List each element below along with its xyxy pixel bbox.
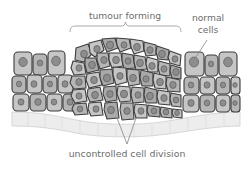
nucleus [149, 63, 155, 70]
nucleus [159, 50, 166, 57]
cell-row-middle-left [12, 75, 73, 93]
nucleus [101, 57, 107, 64]
nucleus [77, 106, 83, 112]
nucleus [135, 92, 141, 98]
nucleus [35, 99, 41, 106]
nucleus [161, 66, 167, 72]
nucleus [163, 109, 169, 115]
tumour-forming-label: tumour forming [89, 10, 161, 21]
nucleus [19, 57, 27, 66]
cell-row-middle-right [184, 77, 240, 94]
nucleus [62, 81, 68, 88]
nucleus [117, 73, 123, 80]
nucleus [130, 74, 137, 81]
nucleus [188, 100, 194, 107]
nucleus [173, 69, 179, 76]
nucleus [189, 57, 198, 67]
nucleus [208, 61, 213, 67]
nucleus [124, 108, 130, 115]
nucleus [51, 99, 57, 105]
nucleus [175, 110, 180, 115]
tissue-illustration: tumour forming normal cells uncontrolled… [0, 0, 250, 169]
nucleus [173, 97, 179, 103]
nucleus [120, 90, 127, 98]
normal-tissue-right [183, 52, 240, 112]
nucleus [76, 79, 82, 86]
nucleus [233, 101, 237, 106]
nucleus [204, 100, 210, 106]
nucleus [170, 82, 176, 89]
nucleus [16, 81, 21, 87]
nucleus [137, 59, 144, 66]
nucleus [143, 76, 149, 82]
nucleus [151, 108, 157, 114]
tumour-forming-brace [70, 22, 181, 32]
tumour-diagram: tumour forming normal cells uncontrolled… [0, 0, 250, 169]
nucleus [108, 106, 115, 113]
cell-row-bottom-left [13, 94, 78, 111]
nucleus [76, 93, 82, 99]
nucleus [81, 50, 88, 57]
nucleus [224, 57, 233, 67]
nucleus [220, 100, 226, 106]
nucleus [106, 41, 113, 49]
nucleus [47, 81, 52, 87]
nucleus [89, 61, 96, 68]
nucleus [107, 91, 113, 98]
nucleus [91, 76, 98, 83]
tumour-mass [70, 38, 182, 120]
nucleus [220, 82, 225, 88]
normal-tissue-left [12, 51, 78, 111]
nucleus [204, 82, 210, 88]
nucleus [52, 56, 61, 66]
nucleus [37, 60, 43, 66]
cell-row-bottom-right [183, 95, 240, 112]
nucleus [134, 43, 141, 50]
nucleus [121, 42, 127, 48]
nucleus [31, 81, 37, 88]
normal-cells-label-line1: normal [192, 12, 224, 23]
nucleus [113, 56, 120, 63]
nucleus [157, 78, 164, 85]
uncontrolled-cell-division-caption: uncontrolled cell division [69, 148, 186, 159]
nucleus [172, 56, 178, 62]
nucleus [188, 82, 194, 88]
cell-row-top-right [185, 52, 237, 76]
nucleus [161, 95, 167, 102]
nucleus [103, 74, 110, 82]
nucleus [233, 83, 237, 88]
nucleus [94, 46, 100, 53]
nucleus [18, 99, 24, 105]
nucleus [93, 106, 99, 112]
normal-cells-label-line2: cells [198, 24, 219, 35]
nucleus [147, 92, 154, 99]
nucleus [138, 108, 144, 114]
nucleus [92, 91, 99, 98]
nucleus [76, 65, 82, 71]
nucleus [147, 47, 153, 54]
nucleus [67, 99, 73, 105]
nucleus [125, 58, 131, 64]
cell-row-top-left [14, 51, 65, 75]
